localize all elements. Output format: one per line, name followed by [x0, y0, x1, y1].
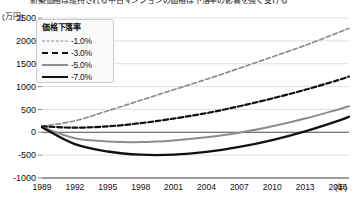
legend-item-2: -3.0% — [42, 47, 109, 59]
legend-item-4: -7.0% — [42, 71, 109, 83]
y-tick-label: 2500 — [16, 13, 36, 23]
x-tick-label: 1995 — [98, 182, 117, 192]
y-tick-label: 0 — [31, 127, 36, 137]
legend-label: -3.0% — [71, 48, 92, 58]
series-line-50 — [42, 106, 349, 142]
y-tick-label: 2000 — [16, 36, 36, 46]
x-tick-label: 2007 — [230, 182, 249, 192]
legend-label: -5.0% — [71, 60, 92, 70]
y-tick-label: 1000 — [16, 82, 36, 92]
legend-swatch-line-icon — [42, 36, 68, 46]
x-tick-label: 2004 — [197, 182, 216, 192]
series-line-70 — [42, 117, 349, 155]
legend-label: -1.0% — [71, 36, 92, 46]
legend-item-3: -5.0% — [42, 59, 109, 71]
legend-swatch-line-icon — [42, 72, 68, 82]
x-tick-label: 1992 — [65, 182, 84, 192]
legend-title: 価格下落率 — [42, 23, 109, 33]
x-tick-label: 1989 — [33, 182, 52, 192]
x-tick-label: 2001 — [164, 182, 183, 192]
x-tick-label: 2013 — [296, 182, 315, 192]
y-tick-label: 1500 — [16, 59, 36, 69]
legend: 価格下落率 -1.0% -3.0% -5.0% -7.0% — [36, 19, 114, 83]
y-tick-label: -500 — [18, 150, 36, 160]
x-tick-label: 1998 — [131, 182, 150, 192]
legend-swatch-line-icon — [42, 60, 68, 70]
chart-container: 新築価格は維持される中古マンションの価格は下落率の影響を強く受ける (万円) 2… — [0, 0, 363, 203]
y-tick-label: 500 — [21, 105, 36, 115]
legend-label: -7.0% — [71, 72, 92, 82]
legend-item-1: -1.0% — [42, 35, 109, 47]
x-tick-label: 2010 — [263, 182, 282, 192]
legend-swatch-line-icon — [42, 48, 68, 58]
x-axis-unit-label: (年) — [335, 182, 347, 192]
